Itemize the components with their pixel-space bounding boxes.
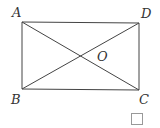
- segment-ad: [22, 22, 139, 23]
- rectangle-diagram: A D B C O: [0, 0, 160, 128]
- segments: [22, 22, 139, 90]
- answer-checkbox[interactable]: [132, 114, 143, 125]
- label-c: C: [139, 92, 149, 107]
- label-b: B: [10, 92, 21, 107]
- label-a: A: [11, 5, 21, 20]
- segment-cb: [22, 89, 139, 90]
- label-o: O: [97, 49, 108, 64]
- label-d: D: [140, 6, 152, 21]
- segment-bd: [22, 23, 139, 89]
